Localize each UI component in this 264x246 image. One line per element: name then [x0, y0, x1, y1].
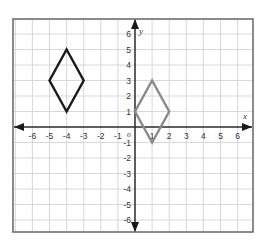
y-tick-label: -6 [123, 215, 131, 225]
y-tick-label: -3 [123, 169, 131, 179]
x-tick-label: -3 [80, 131, 88, 141]
x-tick-label: -6 [29, 131, 37, 141]
y-tick-label: 2 [126, 91, 131, 101]
x-axis-label: x [242, 111, 247, 121]
x-tick-label: 4 [201, 131, 206, 141]
y-tick-label: 3 [126, 76, 131, 86]
y-tick-label: 4 [126, 60, 131, 70]
x-tick-label: -1 [114, 131, 122, 141]
y-tick-label: 5 [126, 45, 131, 55]
x-tick-label: -2 [97, 131, 105, 141]
y-axis-label: y [138, 26, 143, 36]
x-tick-label: -4 [63, 131, 71, 141]
y-tick-label: 1 [126, 107, 131, 117]
y-tick-label: 6 [126, 29, 131, 39]
coordinate-plane: x y o -6-5-4-3-2-1123456654321-1-2-3-4-5… [0, 0, 264, 246]
x-tick-label: 2 [167, 131, 172, 141]
x-tick-label: 6 [235, 131, 240, 141]
y-tick-label: -4 [123, 184, 131, 194]
y-tick-label: -2 [123, 153, 131, 163]
x-tick-label: -5 [46, 131, 54, 141]
y-tick-label: -1 [123, 138, 131, 148]
frame [13, 19, 253, 232]
x-tick-label: 3 [184, 131, 189, 141]
y-tick-label: -5 [123, 200, 131, 210]
x-tick-label: 5 [218, 131, 223, 141]
